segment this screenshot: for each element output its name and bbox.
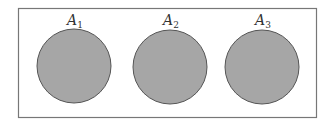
venn-diagram: A1 A2 A3 xyxy=(0,0,333,124)
set-a1-circle xyxy=(37,29,111,103)
set-a3-circle xyxy=(225,30,299,104)
set-a2-circle xyxy=(133,30,207,104)
